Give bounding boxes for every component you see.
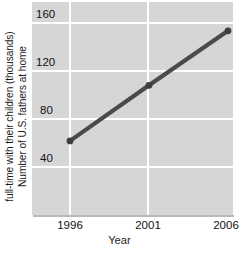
y-tick-label-120: 120 — [36, 56, 55, 68]
y-tick-label-160: 160 — [36, 8, 55, 20]
x-axis-title: Year — [0, 234, 239, 246]
data-point-2006 — [225, 27, 232, 34]
y-axis-title-lines: Number of U.S. fathers at home full-time… — [4, 31, 29, 201]
x-tick-label-1996: 1996 — [47, 219, 93, 231]
x-tick-label-2001: 2001 — [125, 219, 171, 231]
data-point-2001 — [146, 82, 153, 89]
plot-baseline-shadow — [33, 215, 234, 217]
y-axis-title-line-2: full-time with their children (thousands… — [4, 31, 17, 201]
y-tick-label-40: 40 — [40, 152, 53, 164]
data-series-line — [32, 2, 233, 215]
y-tick-label-80: 80 — [40, 104, 53, 116]
plot-area — [32, 2, 233, 215]
y-axis-title: Number of U.S. fathers at home full-time… — [0, 0, 32, 232]
x-tick-label-2006: 2006 — [203, 219, 239, 231]
chart-figure: Number of U.S. fathers at home full-time… — [0, 0, 239, 253]
y-axis-title-line-1: Number of U.S. fathers at home — [16, 46, 29, 187]
data-point-1996 — [67, 138, 74, 145]
